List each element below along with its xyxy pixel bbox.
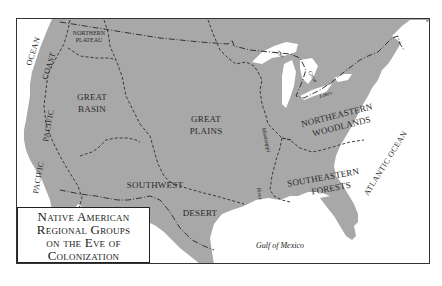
label-desert: DESERT (183, 208, 218, 218)
label-southwest: SOUTHWEST (127, 180, 184, 190)
svg-text:GREAT: GREAT (191, 114, 221, 124)
svg-text:PLATEAU: PLATEAU (76, 37, 103, 43)
label-northern-plateau: NORTHERN PLATEAU (73, 30, 106, 43)
label-gulf-of-mexico: Gulf of Mexico (256, 241, 304, 250)
title-line-4: Colonization (18, 249, 149, 262)
svg-text:GREAT: GREAT (77, 92, 107, 102)
svg-text:NORTHERN: NORTHERN (73, 30, 106, 36)
map-title-box: Native American Regional Groups on the E… (17, 207, 150, 263)
svg-text:BASIN: BASIN (78, 104, 106, 114)
svg-text:PLAINS: PLAINS (190, 126, 223, 136)
